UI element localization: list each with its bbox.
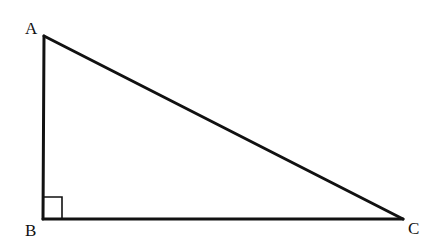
side-ab — [43, 36, 44, 219]
vertex-label-a: A — [25, 19, 38, 38]
vertex-label-b: B — [25, 221, 36, 240]
triangle-figure: A B C — [0, 0, 437, 244]
vertex-label-c: C — [408, 219, 419, 238]
right-angle-marker — [43, 197, 62, 219]
triangle-diagram: A B C — [0, 0, 437, 244]
side-ac-hypotenuse — [44, 36, 403, 219]
